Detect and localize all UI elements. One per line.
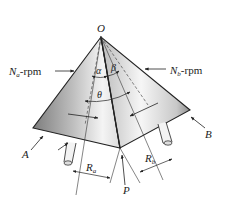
arrow-to-p [122, 155, 125, 185]
pitch-point-label: P [122, 184, 130, 196]
svg-text:Rb: Rb [144, 152, 156, 166]
svg-text:Na-rpm: Na-rpm [8, 65, 42, 79]
arrow-to-a [31, 136, 43, 150]
gear-a-label: A [21, 148, 29, 160]
theta-label: θ [97, 89, 102, 100]
speed-a-label: Na-rpm [8, 65, 42, 79]
shaft-a [64, 142, 76, 165]
radius-a-label: Ra [85, 161, 97, 175]
svg-text:Nb-rpm: Nb-rpm [169, 64, 203, 78]
svg-text:Ra: Ra [85, 161, 97, 175]
ext-line-p1 [110, 148, 120, 183]
speed-b-label: Nb-rpm [169, 64, 203, 78]
alpha-label: α [96, 65, 102, 76]
radius-b-label: Rb [144, 152, 156, 166]
arrow-to-b [191, 117, 205, 128]
shaft-b [158, 122, 172, 145]
apex-label: O [97, 22, 105, 34]
beta-label: β [110, 62, 116, 73]
bevel-gear-diagram: O Na-rpm Nb-rpm α β θ A B P Ra Rb [0, 0, 230, 204]
gear-b-label: B [205, 128, 212, 140]
